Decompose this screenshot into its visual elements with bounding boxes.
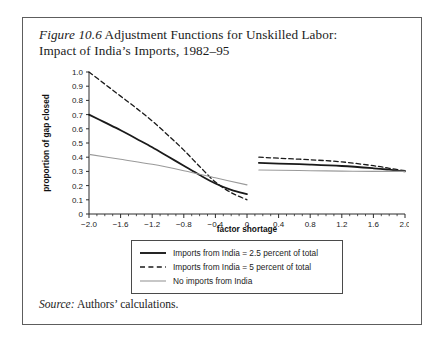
y-tick-label: 0.2 (72, 182, 84, 191)
legend-label-solid: Imports from India = 2.5 percent of tota… (173, 248, 318, 258)
y-tick-label: 0 (79, 210, 84, 219)
y-tick-label: 0.9 (72, 82, 84, 91)
x-tick-label: −1.2 (144, 220, 160, 229)
figure-title: Figure 10.6 Adjustment Functions for Uns… (39, 27, 409, 59)
legend-item: No imports from India (140, 274, 334, 288)
legend-item: Imports from India = 2.5 percent of tota… (140, 246, 334, 260)
legend-swatch-solid (140, 248, 166, 258)
y-tick-label: 0.6 (72, 125, 84, 134)
series-line (89, 72, 247, 200)
y-tick-label: 0.1 (72, 196, 84, 205)
figure-title-line2: Impact of India’s Imports, 1982–95 (39, 43, 230, 58)
series-line (89, 115, 247, 195)
source-note: Source: Authors’ calculations. (39, 298, 178, 311)
x-tick-label: −2.0 (81, 220, 97, 229)
series-line (259, 170, 405, 171)
y-axis-title: proportion of gap closed (41, 94, 51, 192)
legend-label-dashed: Imports from India = 5 percent of total (173, 262, 311, 272)
chart-plot: 00.10.20.30.40.50.60.70.80.91.0 −2.0−1.6… (37, 66, 409, 234)
source-text: Authors’ calculations. (75, 298, 179, 311)
y-tick-label: 0.8 (72, 96, 84, 105)
x-tick-label: −1.6 (113, 220, 129, 229)
legend-swatch-thin (140, 276, 166, 286)
x-axis-title: factor shortage (217, 224, 278, 234)
figure-number: Figure 10.6 (39, 27, 102, 42)
x-tick-label: 1.6 (368, 220, 380, 229)
source-label: Source: (39, 298, 75, 311)
y-ticks: 00.10.20.30.40.50.60.70.80.91.0 (72, 68, 89, 219)
x-tick-label: 2.0 (399, 220, 409, 229)
x-tick-label: 1.2 (336, 220, 348, 229)
x-tick-label: −0.8 (176, 220, 192, 229)
y-tick-label: 1.0 (72, 68, 84, 77)
figure-frame: Figure 10.6 Adjustment Functions for Uns… (22, 17, 422, 325)
y-tick-label: 0.5 (72, 139, 84, 148)
series-lines (89, 72, 405, 200)
x-tick-label: 0.8 (305, 220, 317, 229)
chart-legend: Imports from India = 2.5 percent of tota… (131, 240, 343, 294)
figure-title-line1: Adjustment Functions for Unskilled Labor… (102, 27, 337, 42)
legend-swatch-dashed (140, 262, 166, 272)
y-tick-label: 0.4 (72, 153, 84, 162)
series-line (89, 154, 247, 185)
chart-svg: 00.10.20.30.40.50.60.70.80.91.0 −2.0−1.6… (37, 66, 409, 234)
legend-item: Imports from India = 5 percent of total (140, 260, 334, 274)
y-tick-label: 0.3 (72, 167, 84, 176)
legend-label-thin: No imports from India (173, 276, 252, 286)
y-tick-label: 0.7 (72, 111, 84, 120)
axes (89, 72, 405, 214)
